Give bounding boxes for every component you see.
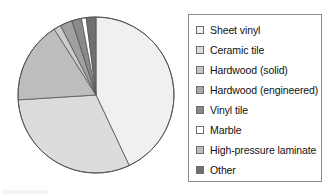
- legend-swatch-hardwood-solid: [196, 66, 204, 74]
- pie-chart-plot-area: [14, 13, 178, 177]
- legend-item-hardwood-engineered[interactable]: Hardwood (engineered): [196, 80, 321, 100]
- legend-swatch-high-pressure-laminate: [196, 146, 204, 154]
- legend-swatch-sheet-vinyl: [196, 26, 204, 34]
- legend-label-ceramic-tile: Ceramic tile: [210, 45, 264, 56]
- pie-chart-svg: [14, 13, 178, 177]
- legend-swatch-ceramic-tile: [196, 46, 204, 54]
- legend-label-sheet-vinyl: Sheet vinyl: [210, 25, 260, 36]
- legend-swatch-marble: [196, 126, 204, 134]
- legend-label-other: Other: [210, 165, 236, 176]
- chart-legend: Sheet vinyl Ceramic tile Hardwood (solid…: [188, 14, 322, 182]
- legend-item-vinyl-tile[interactable]: Vinyl tile: [196, 100, 321, 120]
- legend-label-hardwood-engineered: Hardwood (engineered): [210, 85, 318, 96]
- legend-item-hardwood-solid[interactable]: Hardwood (solid): [196, 60, 321, 80]
- legend-item-ceramic-tile[interactable]: Ceramic tile: [196, 40, 321, 60]
- legend-item-high-pressure-laminate[interactable]: High-pressure laminate: [196, 140, 321, 160]
- pie-slice-group: [18, 17, 174, 173]
- legend-item-other[interactable]: Other: [196, 160, 321, 180]
- scan-artifact: [2, 190, 48, 194]
- legend-swatch-other: [196, 166, 204, 174]
- legend-label-high-pressure-laminate: High-pressure laminate: [210, 145, 316, 156]
- legend-label-vinyl-tile: Vinyl tile: [210, 105, 248, 116]
- legend-item-marble[interactable]: Marble: [196, 120, 321, 140]
- legend-label-hardwood-solid: Hardwood (solid): [210, 65, 288, 76]
- legend-swatch-vinyl-tile: [196, 106, 204, 114]
- pie-chart-figure: Sheet vinyl Ceramic tile Hardwood (solid…: [0, 0, 330, 196]
- legend-label-marble: Marble: [210, 125, 242, 136]
- legend-item-sheet-vinyl[interactable]: Sheet vinyl: [196, 20, 321, 40]
- legend-swatch-hardwood-engineered: [196, 86, 204, 94]
